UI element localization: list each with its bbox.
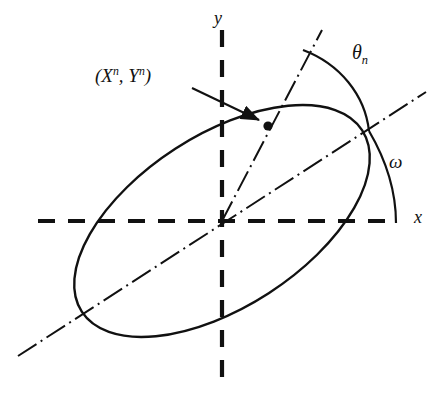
point-label-y-symbol: Y bbox=[128, 65, 139, 86]
point-label-arrow bbox=[192, 88, 259, 120]
omega-angle-label: ω bbox=[389, 152, 402, 171]
diagram-canvas bbox=[0, 0, 440, 403]
point-label-close-paren: ) bbox=[145, 65, 151, 86]
omega-angle-arc bbox=[369, 131, 396, 223]
theta-symbol: θ bbox=[352, 41, 362, 63]
marked-point-label: (Xn, Yn) bbox=[95, 66, 151, 85]
x-axis-label: x bbox=[414, 208, 422, 226]
geometry-diagram: (Xn, Yn) θn ω x y bbox=[0, 0, 440, 403]
point-label-separator: , bbox=[119, 65, 129, 86]
marked-point-dot bbox=[263, 121, 272, 130]
theta-subscript: n bbox=[362, 53, 368, 67]
y-axis-label: y bbox=[214, 9, 222, 27]
point-label-x-symbol: X bbox=[101, 65, 113, 86]
theta-angle-label: θn bbox=[352, 42, 368, 62]
